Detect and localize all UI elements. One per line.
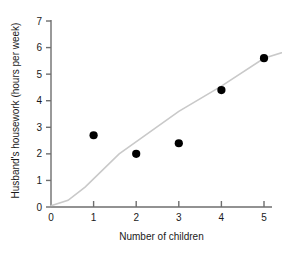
data-point [260, 54, 268, 62]
y-axis-tick-labels: 01234567 [36, 16, 42, 213]
x-tick-label: 2 [133, 212, 139, 223]
y-tick-label: 0 [36, 202, 42, 213]
y-tick-label: 3 [36, 122, 42, 133]
x-axis-tick-labels: 012345 [48, 212, 267, 223]
x-tick-label: 4 [219, 212, 225, 223]
x-tick-label: 5 [261, 212, 267, 223]
scatter-chart-figure: Husband's housework (hours per week) Num… [0, 0, 282, 253]
x-tick-label: 0 [48, 212, 54, 223]
y-tick-label: 2 [36, 148, 42, 159]
data-point [217, 86, 225, 94]
y-tick-label: 7 [36, 16, 42, 27]
data-point [90, 131, 98, 139]
data-point [132, 150, 140, 158]
x-tick-label: 1 [91, 212, 97, 223]
data-points [90, 54, 269, 158]
plot-area: 01234567 012345 [0, 0, 282, 253]
trend-line [51, 48, 282, 206]
y-tick-label: 6 [36, 42, 42, 53]
data-point [175, 139, 183, 147]
y-tick-label: 1 [36, 175, 42, 186]
x-axis-ticks [94, 201, 264, 207]
y-tick-label: 5 [36, 69, 42, 80]
y-axis-ticks [46, 21, 51, 207]
y-tick-label: 4 [36, 95, 42, 106]
x-tick-label: 3 [176, 212, 182, 223]
